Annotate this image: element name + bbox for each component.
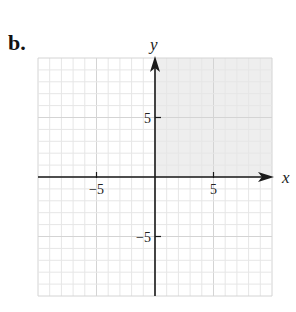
- y-axis-label: y: [148, 35, 158, 54]
- x-tick-label: 5: [210, 182, 217, 197]
- coordinate-plane: xy −555−5: [0, 0, 296, 312]
- x-axis-label: x: [281, 168, 290, 187]
- y-tick-label: 5: [144, 111, 151, 126]
- y-tick-label: −5: [136, 230, 151, 245]
- x-tick-label: −5: [89, 182, 104, 197]
